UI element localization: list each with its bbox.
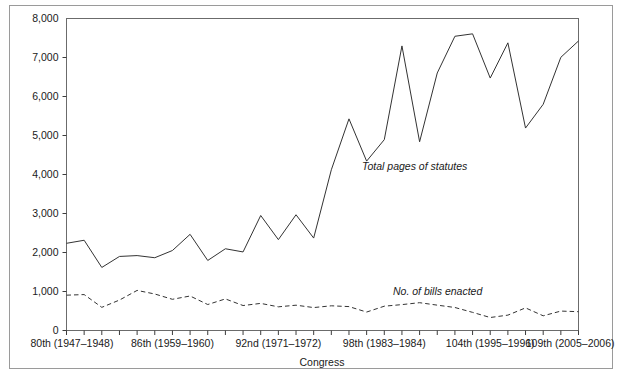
x-axis-tick-label: 80th (1947–1948): [31, 337, 114, 349]
y-axis-tick-labels: 01,0002,0003,0004,0005,0006,0007,0008,00…: [32, 12, 58, 336]
series-no-of-bills-enacted: [67, 290, 579, 317]
y-axis-tick-label: 4,000: [32, 168, 58, 180]
line-chart: 01,0002,0003,0004,0005,0006,0007,0008,00…: [0, 0, 621, 377]
x-axis-tick-labels: 80th (1947–1948)86th (1959–1960)92nd (19…: [31, 337, 615, 349]
y-axis-tick-label: 3,000: [32, 207, 58, 219]
y-axis-tick-label: 6,000: [32, 90, 58, 102]
y-axis-tick-label: 0: [53, 324, 59, 336]
series-label-total-pages: Total pages of statutes: [362, 160, 468, 172]
y-axis-tick-label: 8,000: [32, 12, 58, 24]
series-total-pages-of-statutes: [67, 34, 579, 268]
plot-area-border: [67, 19, 579, 331]
x-axis-tick-label: 92nd (1971–1972): [235, 337, 321, 349]
x-axis-tick-label: 104th (1995–1996): [446, 337, 535, 349]
x-axis-tick-label: 86th (1959–1960): [131, 337, 214, 349]
series-label-bills-enacted: No. of bills enacted: [393, 285, 483, 297]
x-axis-title: Congress: [300, 356, 345, 368]
y-axis-tick-label: 7,000: [32, 51, 58, 63]
x-axis-tick-label: 109th (2005–2006): [526, 337, 615, 349]
y-axis-tick-label: 2,000: [32, 246, 58, 258]
figure-container: 01,0002,0003,0004,0005,0006,0007,0008,00…: [0, 0, 621, 377]
y-axis-tick-label: 1,000: [32, 285, 58, 297]
x-axis-ticks: [67, 331, 579, 336]
y-axis-ticks: [63, 58, 67, 331]
x-axis-tick-label: 98th (1983–1984): [343, 337, 426, 349]
y-axis-tick-label: 5,000: [32, 129, 58, 141]
